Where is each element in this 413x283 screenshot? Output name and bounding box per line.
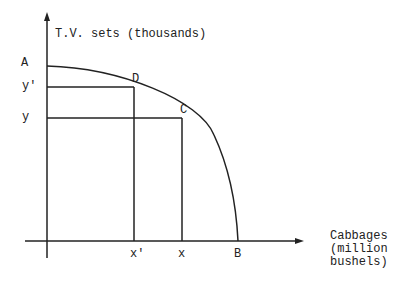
point-b-label: B xyxy=(234,248,241,261)
x-axis-label-line3: bushels) xyxy=(330,256,388,269)
y-axis-arrow-icon xyxy=(44,12,50,21)
y-label: y xyxy=(22,111,29,124)
x-prime-label: x' xyxy=(130,248,144,261)
point-a-label: A xyxy=(21,57,28,70)
y-axis-label: T.V. sets (thousands) xyxy=(55,28,206,41)
ppf-curve xyxy=(47,66,238,241)
point-c-label: C xyxy=(180,104,187,117)
y-prime-label: y' xyxy=(22,80,36,93)
x-axis-arrow-icon xyxy=(295,238,304,244)
point-d-label: D xyxy=(132,73,139,86)
x-label: x xyxy=(178,248,185,261)
